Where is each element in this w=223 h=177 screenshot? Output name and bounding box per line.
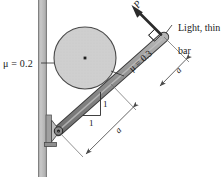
pin-support-icon	[45, 115, 63, 147]
cylinder	[54, 27, 116, 89]
disk-center-dot-icon	[84, 57, 87, 60]
slope-run-label: 1	[89, 118, 94, 128]
friction-coefficient-wall-label: μ = 0.2	[3, 58, 33, 69]
slope-rise-label: 1	[103, 99, 108, 109]
mechanics-figure: μ = 0.2 μ = 0.3 P Light, thin bar a a 1 …	[0, 0, 223, 177]
light-thin-bar-note: Light, thin bar	[168, 11, 220, 67]
dimension-lower-a	[86, 108, 133, 155]
wall	[38, 0, 47, 177]
bar-note-line-2: bar	[178, 45, 191, 56]
bar-note-line-1: Light, thin	[178, 22, 220, 33]
